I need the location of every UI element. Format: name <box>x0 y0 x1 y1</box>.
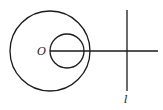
geometry-diagram: O l <box>0 0 163 110</box>
line-label-l: l <box>124 93 128 106</box>
center-label-o: O <box>37 45 46 58</box>
